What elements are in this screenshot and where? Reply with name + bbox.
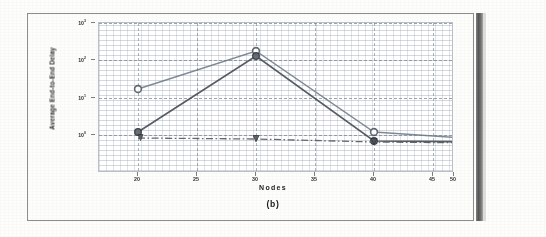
figure-caption: (b) [0, 199, 546, 209]
x-tick-label-30: 30 [244, 176, 266, 182]
y-tick-label-1: 102 [60, 56, 86, 63]
y-tick-label-2: 101 [60, 94, 86, 101]
series-1-marker [135, 86, 142, 93]
y-tick-mark-3 [91, 134, 95, 135]
y-tick-label-0: 103 [60, 19, 86, 26]
x-tick-label-35: 35 [303, 176, 325, 182]
scanned-figure: Average End-to-End Delay 103 102 101 100 [0, 0, 546, 237]
series-2-line [138, 56, 453, 142]
series-2-group [135, 53, 453, 146]
series-1-line [138, 51, 453, 140]
series-2-marker [253, 53, 260, 60]
y-tick-mark-1 [91, 59, 95, 60]
series-1-marker [371, 129, 378, 136]
y-tick-mark-2 [91, 97, 95, 98]
x-tick-label-20: 20 [126, 176, 148, 182]
plot-area [98, 22, 453, 172]
x-axis-title: Nodes [0, 184, 546, 191]
series-1-group [135, 48, 453, 144]
x-tick-label-40: 40 [362, 176, 384, 182]
series-3-group [138, 135, 453, 146]
data-series-layer [99, 23, 453, 172]
y-axis-title: Average End-to-End Delay [49, 24, 56, 154]
x-tick-label-25: 25 [185, 176, 207, 182]
x-tick-label-50: 50 [442, 176, 464, 182]
y-tick-mark-0 [91, 22, 95, 23]
y-tick-label-3: 100 [60, 131, 86, 138]
series-3-marker [253, 136, 259, 142]
x-tick-label-45: 45 [421, 176, 443, 182]
